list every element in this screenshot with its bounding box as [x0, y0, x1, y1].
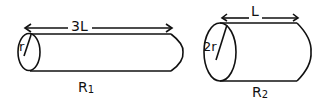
- cylinder-1-radius-label: r: [19, 39, 25, 54]
- cylinder-2-length-label: L: [251, 3, 259, 19]
- cylinder-1-right-face: [171, 34, 183, 71]
- cylinder-2-length-arrow: [222, 14, 298, 21]
- cylinder-2-resistance-label: R2: [252, 84, 268, 100]
- cylinder-2-right-face: [297, 23, 311, 81]
- cylinder-1-length-label: 3L: [71, 18, 88, 34]
- cylinder-1-resistance-label: R1: [78, 79, 94, 95]
- cylinder-1-radius-line: [24, 35, 31, 56]
- cylinder-2: [204, 14, 311, 81]
- resistor-cylinders-diagram: 3L r R1 L 2r R2: [0, 0, 326, 101]
- cylinder-2-radius-line: [216, 25, 227, 60]
- cylinder-2-radius-label: 2r: [203, 39, 217, 54]
- cylinder-1: [18, 24, 183, 71]
- cylinder-1-length-arrow: [25, 24, 172, 32]
